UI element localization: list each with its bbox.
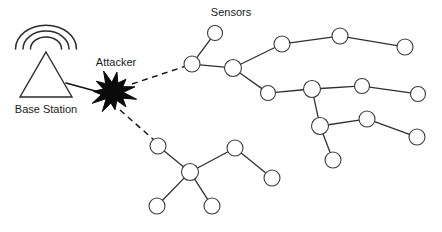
sensor-node[interactable] bbox=[264, 170, 280, 186]
sensor-node[interactable] bbox=[149, 198, 165, 214]
sensor-node[interactable] bbox=[409, 129, 425, 145]
sensor-node[interactable] bbox=[397, 39, 413, 55]
network-diagram-canvas: Sensors Attacker Base Station bbox=[0, 0, 442, 232]
sensor-node[interactable] bbox=[332, 28, 348, 44]
sensor-node[interactable] bbox=[304, 81, 321, 98]
sensor-node[interactable] bbox=[261, 86, 276, 101]
sensor-node[interactable] bbox=[359, 111, 375, 127]
sensor-node[interactable] bbox=[150, 138, 166, 154]
sensors-label: Sensors bbox=[211, 6, 252, 18]
sensor-node[interactable] bbox=[312, 118, 329, 135]
sensor-node[interactable] bbox=[225, 60, 242, 77]
sensor-node[interactable] bbox=[274, 36, 290, 52]
sensor-node[interactable] bbox=[184, 56, 200, 72]
sensor-node[interactable] bbox=[204, 198, 220, 214]
sensor-node[interactable] bbox=[355, 79, 370, 94]
sensor-node[interactable] bbox=[182, 164, 199, 181]
sensor-node[interactable] bbox=[227, 140, 243, 156]
sensor-node[interactable] bbox=[411, 87, 426, 102]
sensor-node[interactable] bbox=[325, 152, 341, 168]
base-station-label: Base Station bbox=[15, 103, 77, 115]
sensor-node[interactable] bbox=[208, 26, 223, 41]
attacker-label: Attacker bbox=[96, 56, 137, 68]
network-diagram: Sensors Attacker Base Station bbox=[0, 0, 442, 232]
